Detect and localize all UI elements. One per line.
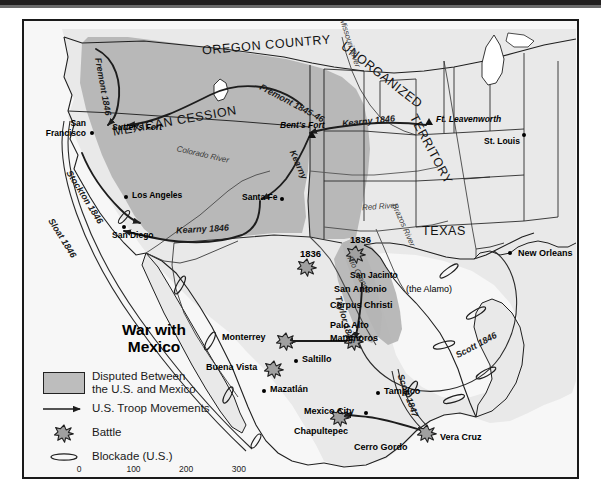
legend-disputed-line1: Disputed Between [92, 370, 185, 382]
place-label-mexico-city: Mexico City [304, 407, 354, 416]
legend-blockade-text: Blockade (U.S.) [92, 450, 173, 464]
legend-item-battle: Battle [36, 421, 266, 445]
legend-title-line1: War with [122, 321, 186, 338]
legend-item-disputed: Disputed Between the U.S. and Mexico [36, 370, 266, 397]
legend-title-line2: Mexico [128, 338, 181, 355]
city-dot-san-diego [122, 225, 126, 229]
place-label-san-diego: San Diego [112, 231, 154, 240]
arrow-icon [40, 402, 88, 416]
place-label-mazatlan: Mazatlán [270, 385, 308, 394]
city-dot-mexico-city [364, 411, 368, 415]
scale-tick-0: 0 [77, 464, 82, 474]
blockade-icon-wrap [36, 451, 92, 463]
map-legend: War with Mexico Disputed Between the U.S… [36, 321, 266, 468]
scale-tick-labels: 0 100 200 300 [74, 464, 244, 476]
place-label-chapultepec: Chapultepec [294, 427, 348, 436]
map-screenshot: OREGON COUNTRY MEXICAN CESSION UNORGANIZ… [0, 0, 601, 502]
map-frame: OREGON COUNTRY MEXICAN CESSION UNORGANIZ… [22, 19, 579, 479]
legend-battle-text: Battle [92, 426, 121, 440]
place-label-st-louis: St. Louis [484, 137, 520, 146]
battle-star-icon-wrap [36, 421, 92, 445]
city-dot-san-francisco [90, 131, 94, 135]
place-label-san-antonio: San Antonio [334, 285, 387, 294]
scale-tick-300: 300 [232, 464, 246, 474]
place-label-vera-cruz: Vera Cruz [440, 433, 482, 442]
place-label-saltillo: Saltillo [302, 355, 332, 364]
place-label-bents-fort: Bent's Fort [280, 121, 325, 130]
legend-item-troop-movements: U.S. Troop Movements [36, 402, 266, 416]
scale-bar: 0 100 200 300 miles [74, 464, 244, 479]
battle-year-alamo: 1836 [300, 249, 321, 259]
disputed-swatch [43, 372, 85, 394]
scale-bar-line [74, 477, 244, 479]
scan-band-top-soft [0, 5, 601, 8]
disputed-swatch-wrap [36, 372, 92, 394]
city-dot-saltillo [294, 359, 298, 363]
place-label-santa-fe: Santa Fe [242, 193, 277, 202]
place-label-san-francisco-line2: Francisco [24, 129, 86, 138]
scale-tick-100: 100 [126, 464, 140, 474]
city-dot-st-louis [522, 133, 526, 137]
place-label-san-francisco-line1: San [32, 119, 86, 128]
place-label-los-angeles: Los Angeles [132, 191, 182, 200]
place-label-palo-alto: Palo Alto [330, 321, 369, 330]
place-label-tampico: Tampico [384, 387, 420, 396]
region-label-texas: TEXAS [422, 225, 466, 238]
fort-marker-ft-leavenworth [425, 118, 433, 125]
place-label-new-orleans: New Orleans [518, 249, 573, 258]
scale-tick-200: 200 [179, 464, 193, 474]
city-dot-new-orleans [508, 251, 512, 255]
legend-disputed-line2: the U.S. and Mexico [92, 383, 196, 395]
place-label-matamoros: Matamoros [330, 334, 378, 343]
legend-title: War with Mexico [36, 321, 266, 356]
battle-year-san-jacinto: 1836 [350, 235, 371, 245]
legend-item-blockade: Blockade (U.S.) [36, 450, 266, 464]
blockade-icon [47, 451, 81, 463]
city-dot-santa-fe [280, 197, 284, 201]
fort-marker-bents-fort [308, 131, 316, 138]
legend-troop-text: U.S. Troop Movements [92, 402, 210, 416]
place-label-ft-leavenworth: Ft. Leavenworth [436, 115, 501, 124]
legend-item-disputed-text: Disputed Between the U.S. and Mexico [92, 370, 196, 397]
place-label-san-antonio-alamo: (the Alamo) [406, 285, 452, 294]
arrow-icon-wrap [36, 402, 92, 416]
place-label-sutters-fort: Sutter's Fort [112, 123, 162, 132]
city-dot-los-angeles [124, 195, 128, 199]
battle-star-icon [51, 421, 77, 445]
place-label-san-jacinto: San Jacinto [350, 271, 398, 280]
place-label-corpus-christi: Corpus Christi [330, 301, 393, 310]
place-label-cerro-gordo: Cerro Gordo [354, 443, 408, 452]
city-dot-tampico [376, 391, 380, 395]
